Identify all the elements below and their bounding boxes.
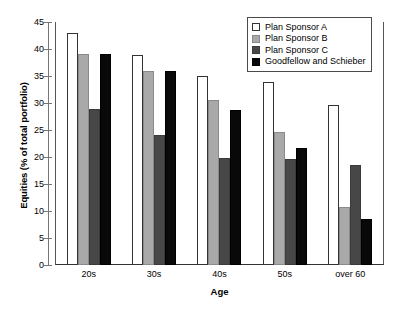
chart-legend: Plan Sponsor APlan Sponsor BPlan Sponsor… xyxy=(247,17,372,72)
bar-chart: Equities (% of total portfolio) 05101520… xyxy=(0,0,395,310)
y-axis-tick xyxy=(44,22,52,23)
bar xyxy=(143,71,154,265)
bar xyxy=(208,100,219,265)
legend-item: Plan Sponsor C xyxy=(252,45,366,56)
bar-group xyxy=(132,22,176,265)
bar xyxy=(219,158,230,265)
y-axis-tick xyxy=(44,76,52,77)
bar xyxy=(285,159,296,265)
legend-swatch-icon xyxy=(252,58,260,66)
bar-group xyxy=(67,22,111,265)
legend-label: Plan Sponsor C xyxy=(265,46,328,55)
bar xyxy=(339,207,350,265)
y-axis-tick xyxy=(44,211,52,212)
bar xyxy=(197,76,208,265)
x-axis-tick-labels: 20s30s40s50sover 60 xyxy=(56,268,383,282)
bar xyxy=(350,165,361,265)
y-axis-spine xyxy=(48,22,49,265)
y-axis-tick xyxy=(44,103,52,104)
bar xyxy=(154,135,165,265)
x-axis-title: Age xyxy=(55,286,384,297)
legend-swatch-icon xyxy=(252,23,260,31)
x-axis-tick-label: 30s xyxy=(132,268,176,282)
y-axis-tick-label: 15 xyxy=(18,180,44,189)
bar xyxy=(165,71,176,265)
y-axis-tick xyxy=(44,49,52,50)
y-axis-tick xyxy=(44,130,52,131)
legend-item: Plan Sponsor A xyxy=(252,22,366,33)
y-axis-tick-label: 40 xyxy=(18,45,44,54)
legend-label: Plan Sponsor B xyxy=(265,34,328,43)
x-axis-tick-label: over 60 xyxy=(328,268,372,282)
y-axis-tick-label: 35 xyxy=(18,72,44,81)
bar xyxy=(78,54,89,265)
bar xyxy=(100,54,111,265)
y-axis-tick-label: 30 xyxy=(18,99,44,108)
bar-group xyxy=(197,22,241,265)
y-axis-tick-label: 45 xyxy=(18,18,44,27)
y-axis-tick-label: 0 xyxy=(18,261,44,270)
bar xyxy=(89,109,100,265)
y-axis-tick xyxy=(44,184,52,185)
bar xyxy=(274,132,285,265)
legend-item: Goodfellow and Schieber xyxy=(252,56,366,67)
legend-swatch-icon xyxy=(252,46,260,54)
x-axis-tick-label: 50s xyxy=(263,268,307,282)
bar xyxy=(361,219,372,265)
y-axis-tick xyxy=(44,265,52,266)
bar xyxy=(328,105,339,265)
y-axis-tick-label: 20 xyxy=(18,153,44,162)
y-axis-tick-label: 25 xyxy=(18,126,44,135)
bar xyxy=(132,55,143,265)
bar xyxy=(67,33,78,265)
y-axis-tick-label: 5 xyxy=(18,234,44,243)
y-axis-tick-label: 10 xyxy=(18,207,44,216)
y-axis-tick xyxy=(44,238,52,239)
x-axis-tick-label: 40s xyxy=(197,268,241,282)
legend-label: Goodfellow and Schieber xyxy=(265,57,366,66)
bar xyxy=(296,148,307,265)
bar xyxy=(230,110,241,265)
legend-item: Plan Sponsor B xyxy=(252,33,366,44)
legend-swatch-icon xyxy=(252,35,260,43)
x-axis-tick-label: 20s xyxy=(67,268,111,282)
bar xyxy=(263,82,274,265)
y-axis-tick xyxy=(44,157,52,158)
legend-label: Plan Sponsor A xyxy=(265,23,327,32)
